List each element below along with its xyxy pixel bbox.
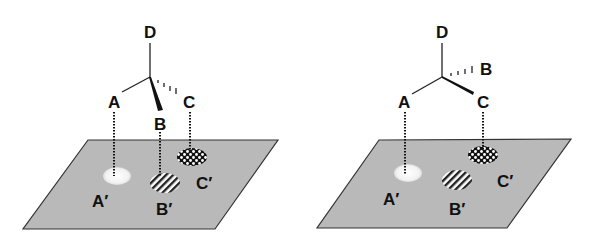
atom-label-b: B [154,115,166,134]
stereo-projection-diagram: D A B C A′ B′ C′ D B A C A′ [0,0,599,238]
left-panel: D A B C A′ B′ C′ [23,23,278,229]
projection-label-a-prime: A′ [383,190,399,209]
wedge-bond-to-c [442,76,474,95]
projection-label-a-prime: A′ [92,192,108,211]
atom-label-c: C [183,93,195,112]
atom-label-a: A [398,93,410,112]
atom-label-d: D [436,23,448,42]
atom-label-d: D [144,23,156,42]
hashed-bond-to-b [451,66,472,76]
atom-label-a: A [108,93,120,112]
spot-b-prime [442,170,472,190]
spot-a-prime [394,164,422,182]
bond-to-a [122,77,150,92]
projection-label-b-prime: B′ [449,200,465,219]
projection-label-c-prime: C′ [497,172,513,191]
hashed-bond-to-c [158,80,176,94]
projection-label-b-prime: B′ [156,200,172,219]
bond-to-a [412,77,442,94]
atom-label-c: C [477,93,489,112]
wedge-bond-to-b [149,77,163,111]
projection-label-c-prime: C′ [196,174,212,193]
spot-b-prime [150,173,180,193]
spot-c-prime [177,148,207,166]
spot-a-prime [103,167,131,185]
right-panel: D B A C A′ B′ C′ [317,23,571,228]
atom-label-b: B [480,60,492,79]
